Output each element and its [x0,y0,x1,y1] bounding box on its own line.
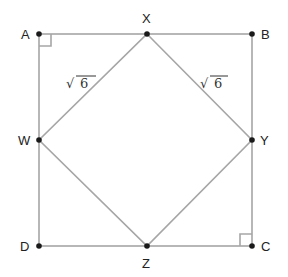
label-x: X [142,11,151,26]
radical-sign: √ [200,76,209,91]
point-a [36,31,42,37]
measurement-value: 6 [214,76,222,91]
point-c [249,243,255,249]
label-a: A [21,27,30,42]
label-w: W [18,133,31,148]
measurement-xy: √ 6 [200,76,228,91]
measurement-value: 6 [80,76,88,91]
label-z: Z [142,256,150,271]
point-x [144,31,150,37]
geometry-diagram: A X B W Y D Z C √ 6 √ 6 [0,0,288,277]
label-b: B [261,27,270,42]
inner-square-xyzw [39,34,252,246]
point-w [36,137,42,143]
point-d [36,243,42,249]
label-c: C [261,239,270,254]
label-y: Y [260,133,269,148]
point-b [249,31,255,37]
point-z [144,243,150,249]
radical-sign: √ [66,76,75,91]
point-y [249,137,255,143]
label-d: D [20,239,29,254]
outer-square-abcd [39,34,252,246]
